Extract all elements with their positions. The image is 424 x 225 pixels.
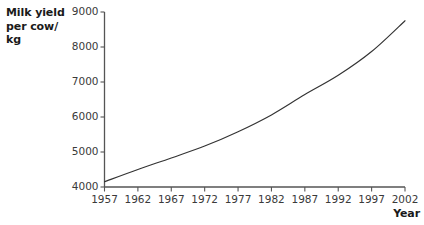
x-tick-label: 2002 <box>388 193 422 205</box>
y-tick-label: 9000 <box>57 5 99 17</box>
chart-tick-marks <box>101 12 406 192</box>
x-tick-label: 1967 <box>154 193 188 205</box>
y-tick-label: 5000 <box>57 145 99 157</box>
x-tick-label: 1977 <box>221 193 255 205</box>
data-series-line <box>105 21 406 182</box>
x-tick-label: 1992 <box>321 193 355 205</box>
chart-axes <box>105 12 406 187</box>
line-chart: Milk yield per cow/ kg Year 400050006000… <box>0 0 424 225</box>
x-tick-label: 1982 <box>254 193 288 205</box>
y-tick-label: 8000 <box>57 40 99 52</box>
x-tick-label: 1972 <box>188 193 222 205</box>
x-tick-label: 1987 <box>288 193 322 205</box>
y-tick-label: 4000 <box>57 180 99 192</box>
x-tick-label: 1962 <box>121 193 155 205</box>
x-tick-label: 1957 <box>88 193 122 205</box>
y-tick-label: 6000 <box>57 110 99 122</box>
y-tick-label: 7000 <box>57 75 99 87</box>
x-tick-label: 1997 <box>355 193 389 205</box>
